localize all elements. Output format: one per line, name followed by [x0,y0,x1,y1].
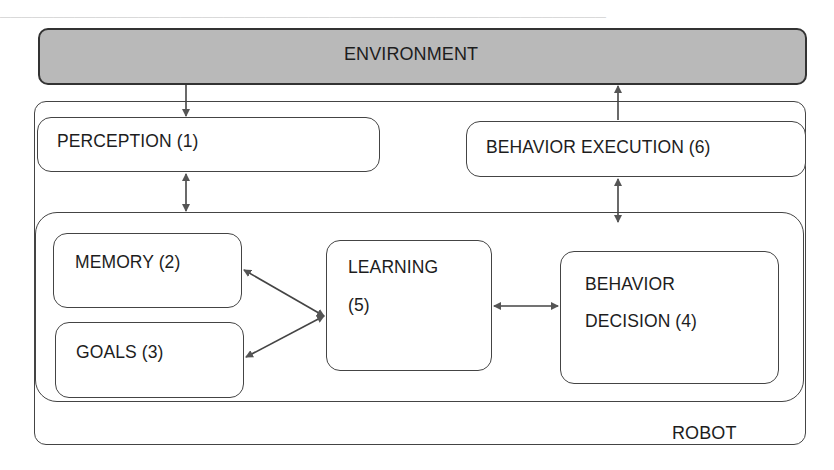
behavior-execution-label: BEHAVIOR EXECUTION (6) [486,137,711,158]
memory-label: MEMORY (2) [75,252,180,273]
learning-label-line1: LEARNING [348,257,438,278]
goals-label: GOALS (3) [76,342,163,363]
environment-label: ENVIRONMENT [344,44,478,65]
robot-label: ROBOT [672,423,737,444]
perception-label: PERCEPTION (1) [57,131,198,152]
behavior-decision-label-line2: DECISION (4) [585,311,697,332]
learning-label-line2: (5) [348,295,370,316]
behavior-decision-label-line1: BEHAVIOR [585,274,675,295]
